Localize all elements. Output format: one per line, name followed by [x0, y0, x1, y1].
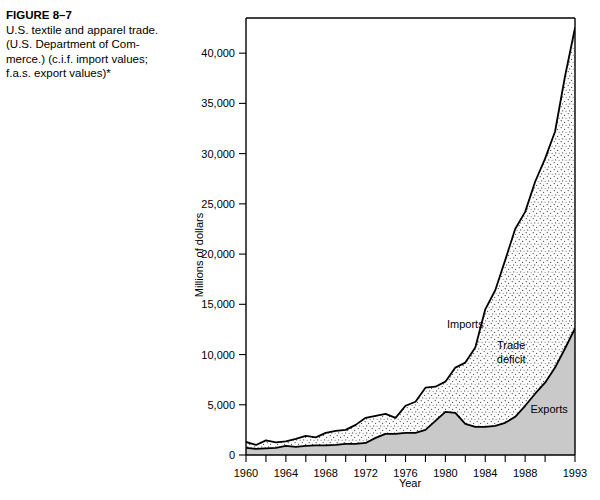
chart-figure: 05,00010,00015,00020,00025,00030,00035,0… — [0, 0, 600, 500]
y-tick-label: 35,000 — [201, 97, 235, 109]
y-tick-label: 0 — [229, 449, 235, 461]
x-tick-label: 1984 — [473, 467, 497, 479]
y-tick-label: 15,000 — [201, 298, 235, 310]
y-axis-tick-labels: 05,00010,00015,00020,00025,00030,00035,0… — [201, 47, 235, 461]
y-tick-label: 40,000 — [201, 47, 235, 59]
annotation-exports: Exports — [530, 403, 568, 415]
x-tick-label: 1993 — [563, 467, 587, 479]
x-tick-label: 1964 — [274, 467, 298, 479]
plot-areas — [246, 28, 575, 455]
annotation-imports: Imports — [447, 318, 484, 330]
annotation-deficit: deficit — [497, 353, 526, 365]
y-axis-title: Millions of dollars — [193, 212, 205, 297]
y-tick-label: 25,000 — [201, 198, 235, 210]
x-tick-label: 1972 — [353, 467, 377, 479]
y-tick-label: 20,000 — [201, 248, 235, 260]
trade-deficit-stipple — [246, 28, 575, 449]
x-axis-ticks — [246, 455, 575, 462]
y-axis-ticks — [239, 53, 246, 455]
annotation-trade: Trade — [497, 339, 525, 351]
x-axis-title: Year — [399, 477, 422, 489]
y-tick-label: 10,000 — [201, 349, 235, 361]
x-tick-label: 1960 — [234, 467, 258, 479]
x-tick-label: 1968 — [314, 467, 338, 479]
trade-chart: 05,00010,00015,00020,00025,00030,00035,0… — [0, 0, 600, 500]
x-tick-label: 1980 — [433, 467, 457, 479]
y-tick-label: 30,000 — [201, 148, 235, 160]
y-tick-label: 5,000 — [207, 399, 235, 411]
x-tick-label: 1988 — [513, 467, 537, 479]
